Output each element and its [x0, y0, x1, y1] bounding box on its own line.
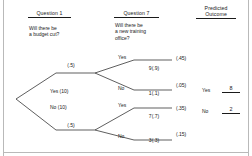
answer-label-no-no: No	[118, 133, 134, 139]
branch-probability-yes: (.5)	[60, 62, 82, 68]
predicted-outcome-value-no: 2	[222, 106, 240, 114]
predicted-outcome-label-yes: Yes	[202, 87, 210, 93]
joint-probability-no-yes: (.35)	[176, 105, 200, 111]
answer-label-yes-no: No	[118, 85, 134, 91]
branch-probability-no: (.5)	[60, 122, 82, 128]
edge-yes-to-yes	[95, 60, 134, 73]
node-value-no-no: 3(.3)	[141, 137, 167, 143]
joint-probability-yes-no: (.05)	[176, 82, 200, 88]
predicted-outcome-value-yes-number: 8	[222, 85, 240, 91]
predicted-outcome-value-no-number: 2	[222, 106, 240, 112]
decision-tree-figure: Question 1 Question 7 Predicted Outcome …	[0, 0, 252, 156]
node-value-yes-no: 1(.1)	[141, 90, 167, 96]
node-label-yes: Yes (10)	[50, 88, 82, 94]
node-value-no-yes: 7(.7)	[141, 113, 167, 119]
edge-root-to-yes	[16, 73, 56, 99]
answer-label-yes-yes: Yes	[118, 54, 134, 60]
predicted-outcome-label-no: No	[202, 108, 208, 114]
edge-no-to-yes	[95, 108, 134, 130]
joint-probability-yes-yes: (.45)	[176, 55, 200, 61]
predicted-outcome-value-yes: 8	[222, 85, 240, 93]
node-value-yes-yes: 9(.9)	[141, 65, 167, 71]
joint-probability-no-no: (.15)	[176, 131, 200, 137]
predicted-outcome-value-yes-underline	[222, 92, 240, 93]
node-label-no: No (10)	[50, 104, 82, 110]
answer-label-no-yes: Yes	[118, 102, 134, 108]
predicted-outcome-value-no-underline	[222, 113, 240, 114]
